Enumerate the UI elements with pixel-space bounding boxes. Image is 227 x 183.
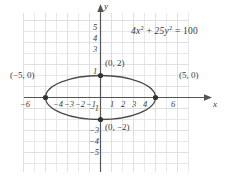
x-tick-label--6: −6 xyxy=(20,100,30,109)
point-label-bottom-vertex: (0, −2) xyxy=(105,123,130,132)
y-tick-label-4: 4 xyxy=(93,34,97,43)
point-label-top-vertex: (0, 2) xyxy=(105,59,125,68)
point-marker-left-vertex xyxy=(43,95,48,100)
point-label-left-vertex: (−5, 0) xyxy=(10,71,35,80)
y-tick-label--3: −3 xyxy=(89,126,99,135)
y-tick-label-5: 5 xyxy=(93,23,97,32)
y-tick-label--5: −5 xyxy=(89,148,99,157)
x-tick-label--3: −3 xyxy=(64,100,74,109)
point-label-right-vertex: (5, 0) xyxy=(179,71,199,80)
y-tick-label-3: 3 xyxy=(93,45,97,54)
y-tick-label--4: −4 xyxy=(89,137,99,146)
point-marker-right-vertex xyxy=(153,95,158,100)
y-tick-label-1: 1 xyxy=(93,67,97,76)
ellipse-graph-figure: x y 4x2 + 25y2 = 100 −6 −4 −3 −2 −1 1 2 … xyxy=(0,0,227,183)
equation-annotation: 4x2 + 25y2 = 100 xyxy=(131,25,198,37)
point-marker-bottom-vertex xyxy=(98,117,103,122)
x-tick-label-6: 6 xyxy=(171,100,175,109)
x-tick-label-2: 2 xyxy=(121,100,125,109)
x-tick-label-4: 4 xyxy=(143,100,147,109)
point-marker-top-vertex xyxy=(98,73,103,78)
x-axis-label: x xyxy=(213,100,217,109)
y-axis-label: y xyxy=(104,2,108,11)
x-tick-label-3: 3 xyxy=(132,100,136,109)
y-tick-label--1: −1 xyxy=(89,104,99,113)
x-tick-label--2: −2 xyxy=(75,100,85,109)
x-tick-label-1: 1 xyxy=(110,100,114,109)
x-tick-label--4: −4 xyxy=(53,100,63,109)
